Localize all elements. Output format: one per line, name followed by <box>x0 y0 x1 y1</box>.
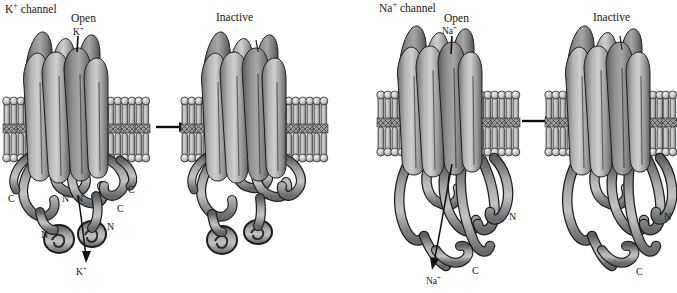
na-pore-pointer <box>451 36 452 54</box>
na-ion-inflow-label: Na+ <box>442 27 457 37</box>
terminus-n-k-open-center1: N <box>62 194 69 204</box>
terminus-n-k-open-center2: N <box>76 194 83 204</box>
terminus-n-k-open-lowerright: N <box>107 222 114 232</box>
k-channel-title: K+ channel <box>5 4 57 16</box>
terminus-c-na-open: C <box>472 266 479 276</box>
terminus-n-k-open-lowerleft: N <box>41 230 48 240</box>
na-open-state-label: Open <box>444 13 469 25</box>
k-inactive-state-label: Inactive <box>216 12 253 24</box>
na-inactive-state-label: Inactive <box>593 12 630 24</box>
terminus-c-k-open-upperright: C <box>128 185 135 195</box>
channel-illustration <box>0 0 677 293</box>
k-open-state-label: Open <box>71 13 96 25</box>
ion-channel-gating-figure: K+ channel Open Inactive Na+ channel Ope… <box>0 0 677 293</box>
na-channel-title: Na+ channel <box>379 3 436 15</box>
na-ion-outflow-label: Na+ <box>426 277 441 287</box>
terminus-c-k-open-right: C <box>117 204 124 214</box>
terminus-c-k-open-left: C <box>8 194 15 204</box>
terminus-n-na-inactive: N <box>664 212 671 222</box>
k-pore-pointer <box>77 36 78 52</box>
k-ion-inflow-label: K+ <box>73 28 84 38</box>
k-ion-outflow-label: K+ <box>76 268 87 278</box>
terminus-n-na-open: N <box>509 212 516 222</box>
terminus-c-na-inactive: C <box>636 267 643 277</box>
